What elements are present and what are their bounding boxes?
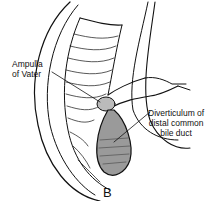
anatomy-diagram <box>0 0 214 201</box>
mucosa-right-edge <box>108 25 122 95</box>
label-ampulla-line-1: Ampulla <box>12 59 43 69</box>
label-diverticulum: Diverticulum of distal common bile duct <box>148 108 204 138</box>
label-diverticulum-line-2: distal common <box>148 118 204 128</box>
label-diverticulum-line-3: bile duct <box>148 128 204 138</box>
diverticulum-sac <box>97 110 131 175</box>
bile-duct-lower <box>110 86 178 108</box>
bile-duct-upper <box>108 78 145 95</box>
label-ampulla-of-vater: Ampulla of Vater <box>12 59 43 79</box>
mucosa-top-edge <box>80 18 122 25</box>
leader-line-ampulla <box>52 72 100 102</box>
bile-duct-branch <box>145 77 190 90</box>
duodenum-outer-wall-left <box>35 2 100 201</box>
label-diverticulum-line-1: Diverticulum of <box>148 108 204 118</box>
ampulla-of-vater <box>97 97 115 111</box>
panel-label: B <box>103 185 112 200</box>
label-ampulla-line-2: of Vater <box>12 69 43 79</box>
